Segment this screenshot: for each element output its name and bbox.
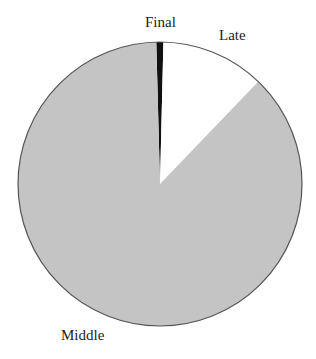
slice-label-final: Final [145,14,176,31]
pie-slices [18,42,302,326]
slice-label-late: Late [219,27,246,44]
slice-label-middle: Middle [61,327,104,344]
pie-chart [0,0,316,359]
